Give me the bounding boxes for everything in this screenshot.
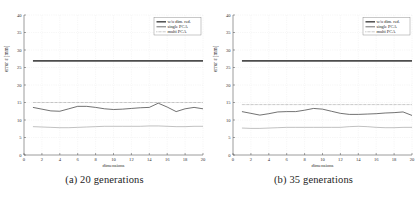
- y-axis-title-a: error ε [mm]: [3, 58, 9, 72]
- y-tick-label: 30: [226, 48, 231, 53]
- y-tick-label: 0: [19, 153, 22, 158]
- x-tick-label: 2: [250, 157, 253, 162]
- panel-caption-b: (b) 35 generations: [209, 174, 418, 185]
- series-line: [242, 126, 412, 128]
- y-tick-label: 40: [17, 13, 22, 18]
- x-tick-label: 10: [111, 157, 116, 162]
- y-tick-label: 40: [226, 13, 231, 18]
- x-tick-label: 20: [410, 157, 415, 162]
- x-tick-label: 10: [320, 157, 325, 162]
- y-tick-label: 35: [17, 30, 22, 35]
- x-axis-title: dimensions: [312, 163, 334, 168]
- x-tick-label: 12: [129, 157, 134, 162]
- y-tick-label: 10: [17, 118, 22, 123]
- plot-area-a: 051015202530354002468101214161820dimensi…: [0, 0, 209, 172]
- x-axis-title: dimensions: [103, 163, 125, 168]
- x-tick-label: 4: [59, 157, 62, 162]
- x-tick-label: 14: [356, 157, 361, 162]
- y-tick-label: 0: [228, 153, 231, 158]
- x-tick-label: 18: [183, 157, 188, 162]
- y-tick-label: 10: [226, 118, 231, 123]
- y-tick-label: 25: [17, 65, 22, 70]
- x-tick-label: 12: [338, 157, 343, 162]
- y-tick-label: 30: [17, 48, 22, 53]
- chart-svg-b: 051015202530354002468101214161820dimensi…: [209, 0, 418, 172]
- y-tick-label: 25: [226, 65, 231, 70]
- series-line: [33, 103, 203, 111]
- x-tick-label: 2: [41, 157, 44, 162]
- legend-label: multi PCA: [168, 29, 188, 34]
- y-tick-label: 20: [17, 83, 22, 88]
- x-tick-label: 14: [147, 157, 152, 162]
- x-tick-label: 0: [23, 157, 26, 162]
- y-tick-label: 35: [226, 30, 231, 35]
- x-tick-label: 4: [268, 157, 271, 162]
- x-tick-label: 8: [303, 157, 306, 162]
- series-line: [33, 126, 203, 128]
- x-tick-label: 0: [232, 157, 235, 162]
- legend-label: multi PCA: [377, 29, 397, 34]
- x-tick-label: 6: [77, 157, 80, 162]
- x-tick-label: 18: [392, 157, 397, 162]
- y-axis-title-b: error ε [mm]: [212, 58, 218, 72]
- plot-area-b: 051015202530354002468101214161820dimensi…: [209, 0, 418, 172]
- chart-svg-a: 051015202530354002468101214161820dimensi…: [0, 0, 209, 172]
- x-tick-label: 6: [286, 157, 289, 162]
- figure-two-panel-line-charts: 051015202530354002468101214161820dimensi…: [0, 0, 418, 201]
- y-tick-label: 5: [19, 135, 22, 140]
- series-line: [242, 108, 412, 115]
- y-tick-label: 15: [17, 100, 22, 105]
- x-tick-label: 20: [201, 157, 206, 162]
- panel-b: 051015202530354002468101214161820dimensi…: [209, 0, 418, 201]
- y-tick-label: 5: [228, 135, 231, 140]
- y-tick-label: 20: [226, 83, 231, 88]
- panel-a: 051015202530354002468101214161820dimensi…: [0, 0, 209, 201]
- x-tick-label: 16: [374, 157, 379, 162]
- panel-caption-a: (a) 20 generations: [0, 174, 209, 185]
- x-tick-label: 16: [165, 157, 170, 162]
- x-tick-label: 8: [94, 157, 97, 162]
- y-tick-label: 15: [226, 100, 231, 105]
